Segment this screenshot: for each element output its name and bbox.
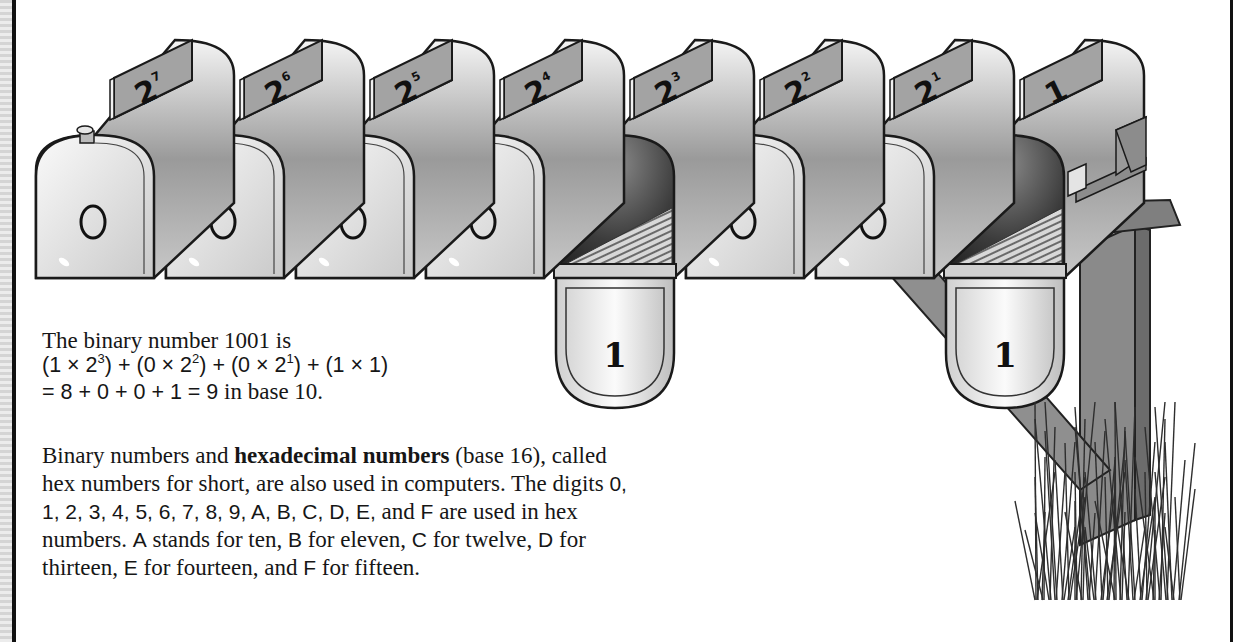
text: and [376,499,421,524]
text: stands for ten, [147,527,288,552]
text: 0, [609,472,627,495]
digit-one: 1 [993,335,1017,375]
text: numbers. [42,527,133,552]
text: Binary numbers and [42,443,234,468]
paragraph-line-2: hex numbers for short, are also used in … [42,471,627,496]
text: B [288,528,302,551]
text: thirteen, [42,555,124,580]
text: D [538,528,553,551]
eq-part: ) + (0 × 2 [199,353,286,377]
eq-part: ) + (1 × 1) [294,353,388,377]
eq-part: (1 × 2 [42,353,98,377]
text: F [421,500,434,523]
eq-part: ) + (0 × 2 [105,353,192,377]
example-line-3: = 8 + 0 + 0 + 1 = 9 in base 10. [42,379,323,405]
text: for [553,527,586,552]
term-hexadecimal: hexadecimal numbers [234,443,449,468]
text: hex numbers for short, are also used in … [42,471,609,496]
digit-one: 1 [603,335,627,375]
text: for twelve, [427,527,538,552]
text: A [133,528,147,551]
text: 1, 2, 3, 4, 5, 6, 7, 8, 9, A, B, C, D, E… [42,500,376,523]
exponent: 3 [98,351,105,366]
open-door: 1 [944,264,1066,408]
text: for fifteen. [316,555,420,580]
text: E [124,556,138,579]
eq-sum: = 8 + 0 + 0 + 1 = 9 [42,380,218,404]
exponent: 1 [287,351,294,366]
paragraph-line-5: thirteen, E for fourteen, and F for fift… [42,555,420,580]
example-line-2: (1 × 23) + (0 × 22) + (0 × 21) + (1 × 1) [42,353,388,378]
textbook-page: 11212223124252627 The binary number 1001… [0,0,1236,642]
text: for eleven, [302,527,412,552]
text: C [412,528,427,551]
paragraph-line-3: 1, 2, 3, 4, 5, 6, 7, 8, 9, A, B, C, D, E… [42,499,578,524]
text: for fourteen, and [138,555,303,580]
text: F [303,556,316,579]
example-line-1: The binary number 1001 is [42,328,291,353]
paragraph-line-1: Binary numbers and hexadecimal numbers (… [42,443,607,468]
paragraph-line-4: numbers. A stands for ten, B for eleven,… [42,527,586,552]
eq-suffix: in base 10. [218,379,323,404]
text: (base 16), called [450,443,607,468]
open-door: 1 [554,264,676,408]
text: are used in hex [433,499,577,524]
